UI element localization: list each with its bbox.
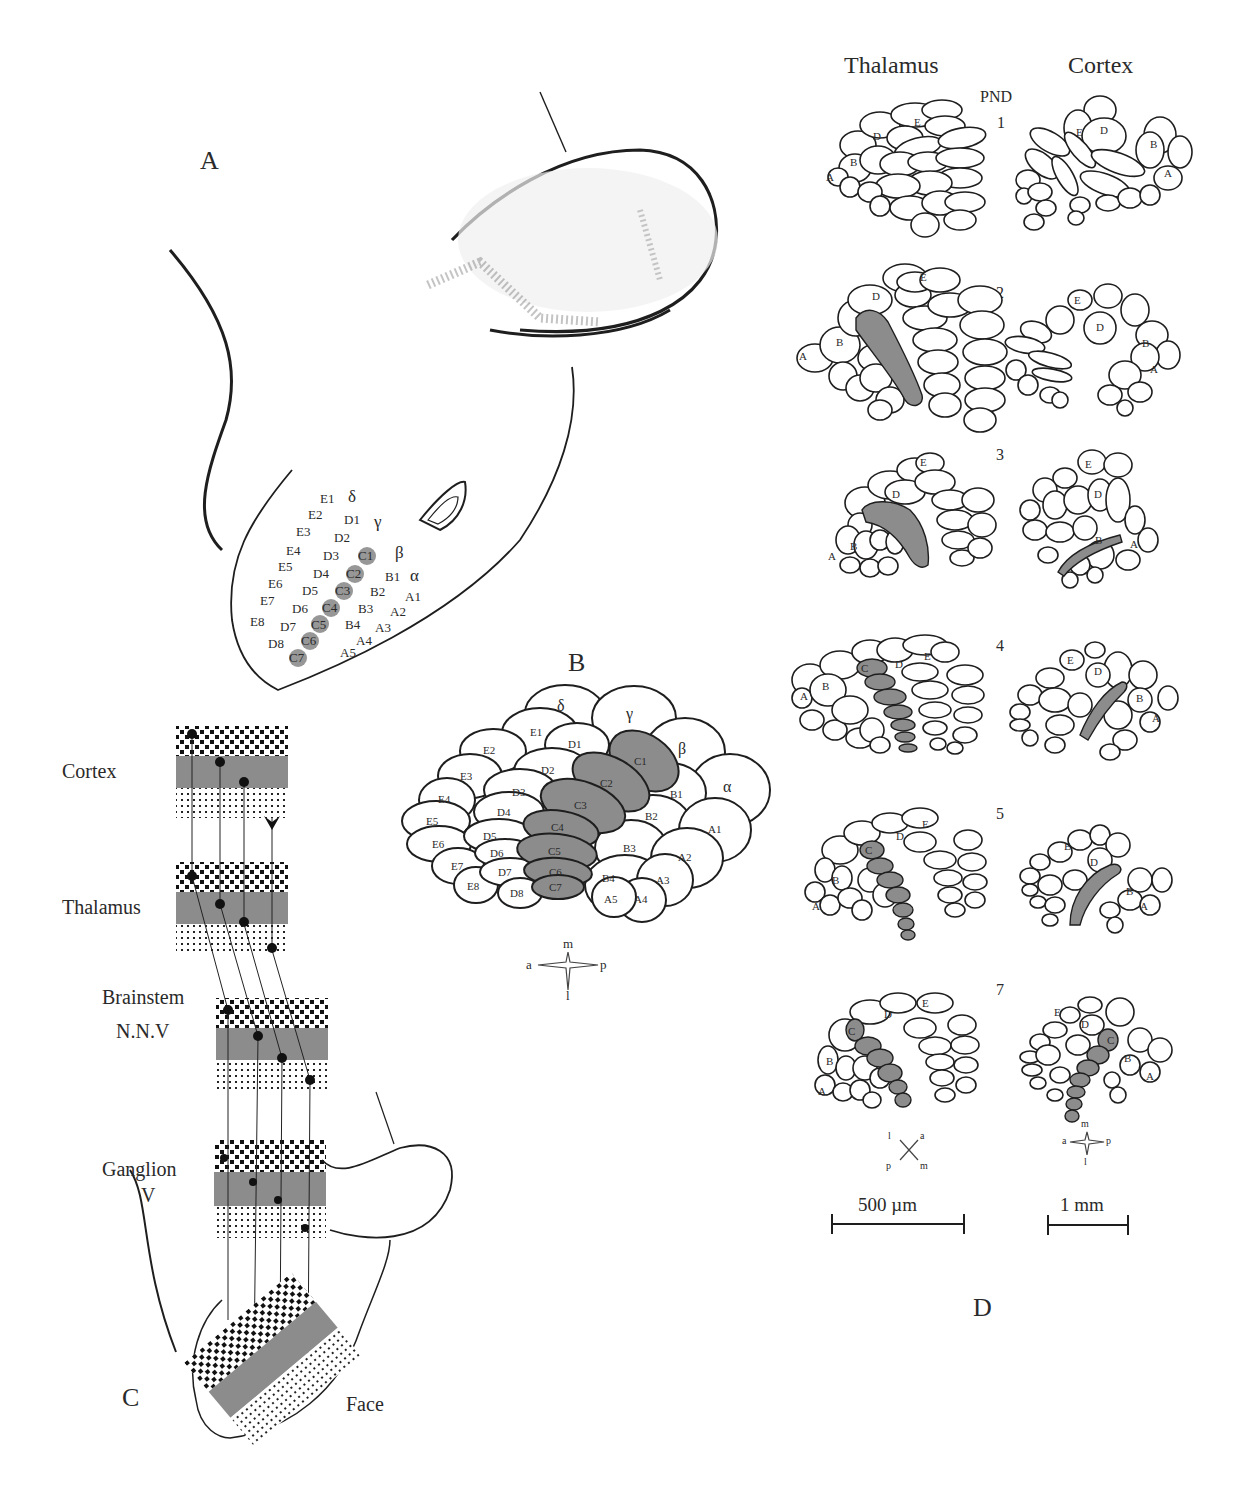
pnd3-thal-label-B: B: [850, 540, 857, 552]
pnd5-thal-label-E: E: [922, 818, 929, 830]
pnd1-thal-label-E: E: [914, 116, 921, 128]
pnd7-ctx-label-B: B: [1124, 1052, 1131, 1064]
pnd7-ctx-label-A: A: [1146, 1070, 1154, 1082]
pnd2-ctx-label-A: A: [1150, 363, 1158, 375]
pnd5-thal-label-A: A: [812, 900, 820, 912]
pnd2-ctx-label-E: E: [1074, 294, 1081, 306]
pnd5-ctx-label-B: B: [1126, 885, 1133, 897]
pnd1-thal-label-D: D: [873, 130, 881, 142]
pnd1-thal-label-A: A: [826, 171, 834, 183]
ctx-compass-p: p: [1106, 1135, 1111, 1146]
pnd7-ctx-label-C: C: [1107, 1034, 1114, 1046]
pnd4-ctx-label-A: A: [1152, 712, 1160, 724]
pnd4-thal-label-E: E: [924, 650, 931, 662]
scale-bar-thalamus-label: 500 µm: [858, 1194, 917, 1216]
pnd5-ctx-label-E: E: [1064, 840, 1071, 852]
pnd5-ctx-label-D: D: [1090, 856, 1098, 868]
pnd4-ctx-label-D: D: [1094, 665, 1102, 677]
pnd3-thal-label-E: E: [920, 456, 927, 468]
pnd3-ctx-label-A: A: [1130, 538, 1138, 550]
pnd2-thal-label-B: B: [836, 336, 843, 348]
pnd7-ctx-label-E: E: [1054, 1006, 1061, 1018]
ctx-compass-m: m: [1081, 1118, 1089, 1129]
thal-compass-m: m: [920, 1160, 928, 1171]
pnd2-thal-label-A: A: [799, 350, 807, 362]
pnd5-thal-label-B: B: [832, 874, 839, 886]
pnd2-thal-label-D: D: [872, 290, 880, 302]
pnd5-thal-label-C: C: [865, 844, 872, 856]
thal-compass-l: l: [888, 1130, 891, 1141]
panel-d-barrel-maps: [0, 0, 1234, 1496]
pnd5-ctx-label-A: A: [1140, 900, 1148, 912]
pnd1-ctx-label-E: E: [1076, 126, 1083, 138]
pnd1-thal-label-B: B: [850, 156, 857, 168]
pnd7-thal-label-E: E: [922, 997, 929, 1009]
panel-d-label: D: [973, 1293, 992, 1323]
thal-compass-p: p: [886, 1160, 891, 1171]
pnd3-ctx-label-E: E: [1085, 458, 1092, 470]
pnd7-ctx-label-D: D: [1081, 1018, 1089, 1030]
pnd5-thal-label-D: D: [896, 830, 904, 842]
pnd3-thal-label-A: A: [828, 550, 836, 562]
pnd1-ctx-label-D: D: [1100, 124, 1108, 136]
pnd4-thal-label-B: B: [822, 680, 829, 692]
pnd2-ctx-label-D: D: [1096, 321, 1104, 333]
pnd7-thal-label-D: D: [884, 1008, 892, 1020]
pnd3-ctx-label-B: B: [1095, 534, 1102, 546]
pnd3-ctx-label-D: D: [1094, 488, 1102, 500]
ctx-compass-l: l: [1084, 1156, 1087, 1167]
pnd4-ctx-label-B: B: [1136, 692, 1143, 704]
ctx-compass-a: a: [1062, 1135, 1066, 1146]
pnd2-thal-label-E: E: [920, 271, 927, 283]
pnd7-thal-label-A: A: [818, 1085, 826, 1097]
pnd1-ctx-label-A: A: [1164, 167, 1172, 179]
thal-compass-a: a: [920, 1130, 924, 1141]
pnd7-thal-label-B: B: [826, 1055, 833, 1067]
pnd4-ctx-label-E: E: [1067, 654, 1074, 666]
pnd4-thal-label-A: A: [800, 690, 808, 702]
pnd7-thal-label-C: C: [848, 1025, 855, 1037]
pnd4-thal-label-D: D: [895, 658, 903, 670]
pnd1-ctx-label-B: B: [1150, 138, 1157, 150]
pnd2-ctx-label-B: B: [1142, 337, 1149, 349]
scale-bar-cortex-label: 1 mm: [1060, 1194, 1104, 1216]
pnd3-thal-label-D: D: [892, 488, 900, 500]
pnd4-thal-label-C: C: [861, 662, 868, 674]
